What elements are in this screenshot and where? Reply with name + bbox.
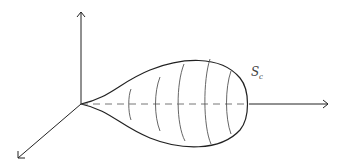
meridian-curve-3 <box>178 64 185 141</box>
diagram-canvas: S c <box>0 0 339 166</box>
meridian-curve-5 <box>227 71 232 134</box>
y-axis <box>18 104 81 158</box>
surface-label-subscript: c <box>259 73 263 81</box>
meridian-curve-4 <box>205 59 211 144</box>
surface-label: S <box>251 65 259 79</box>
